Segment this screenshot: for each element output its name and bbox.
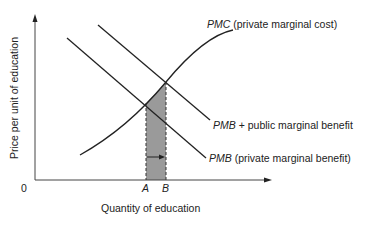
pmb-public-label: PMB + public marginal benefit [213, 119, 353, 131]
y-axis-arrowhead [33, 14, 38, 22]
y-axis-label: Price per unit of education [8, 37, 20, 159]
shaded-gain-region [146, 82, 166, 180]
pmb-curve [67, 38, 206, 158]
x-axis-label: Quantity of education [101, 202, 200, 214]
pmb-public-desc: + public marginal benefit [236, 119, 353, 131]
pmb-desc: (private marginal benefit) [232, 152, 351, 164]
y-axis-label-wrap: Price per unit of education [4, 0, 24, 229]
tick-b-label: B [162, 182, 169, 194]
tick-a-label: A [142, 182, 149, 194]
pmc-label: PMC (private marginal cost) [207, 18, 337, 30]
origin-label: 0 [21, 182, 27, 194]
pmb-label: PMB (private marginal benefit) [209, 152, 351, 164]
x-axis-arrowhead [264, 178, 272, 183]
pmc-desc: (private marginal cost) [230, 18, 337, 30]
pmc-name: PMC [207, 18, 230, 30]
diagram-canvas [0, 0, 365, 229]
pmb-name: PMB [209, 152, 232, 164]
pmb-public-name: PMB [213, 119, 236, 131]
